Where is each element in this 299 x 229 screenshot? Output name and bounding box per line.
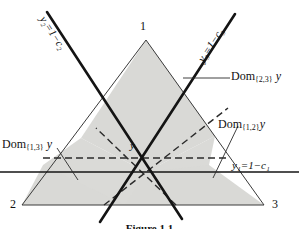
dom-2-3-suffix: y [276, 69, 281, 83]
vertex-label-3: 3 [272, 198, 278, 210]
dom-1-2-suffix: y [260, 117, 265, 131]
vertex-label-1: 1 [140, 20, 146, 32]
label-dom-1-2: Dom{1,2}y [218, 118, 265, 132]
label-dom-2-3: Dom{2,3} y [231, 70, 281, 84]
center-point-label: y [130, 140, 135, 151]
dom-1-3-subscript: {1,3} [26, 143, 44, 152]
dom-2-3-subscript: {2,3} [255, 75, 273, 84]
simplex-dominance-diagram [0, 0, 299, 229]
dom-1-3-suffix: y [47, 137, 52, 151]
line-label-y1: y₁=1−c₁ [232, 160, 270, 171]
dom-1-2-prefix: Dom [218, 117, 242, 131]
figure-caption: Figure 1.1 [0, 222, 299, 229]
label-dom-1-3: Dom{1,3} y [2, 138, 52, 152]
figure-container: 1 2 3 y y₂=1−c₂ y₃=1−c₃ y₁=1−c₁ Dom{2,3}… [0, 0, 299, 229]
dom-1-2-subscript: {1,2} [242, 123, 260, 132]
dom-1-3-prefix: Dom [2, 137, 26, 151]
vertex-label-2: 2 [10, 198, 16, 210]
dom-2-3-prefix: Dom [231, 69, 255, 83]
